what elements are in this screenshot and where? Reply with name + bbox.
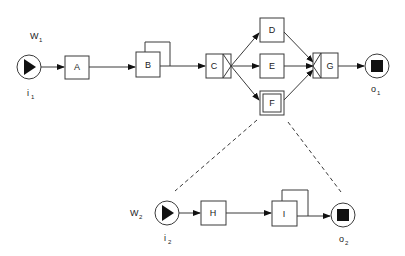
w1-name: W	[30, 31, 39, 41]
svg-text:F: F	[269, 98, 275, 108]
svg-text:B: B	[145, 60, 151, 70]
svg-text:C: C	[211, 61, 218, 71]
refinement-line-left	[175, 120, 257, 191]
o2-label-sub: 2	[345, 240, 349, 246]
task-g-xor-join[interactable]: G	[313, 53, 338, 78]
stop-icon	[371, 60, 383, 72]
refinement-line-right	[288, 122, 341, 192]
task-a[interactable]: A	[65, 56, 89, 79]
o1-label: o	[371, 84, 376, 94]
input-condition-i1[interactable]	[17, 55, 41, 79]
w2-name-sub: 2	[139, 214, 143, 220]
o1-label-sub: 1	[377, 90, 381, 96]
w2-name: W	[130, 208, 139, 218]
i2-label-sub: 2	[168, 239, 172, 245]
task-h[interactable]: H	[201, 201, 226, 225]
w1-name-sub: 1	[39, 37, 43, 43]
task-f-composite[interactable]: F	[260, 91, 284, 115]
svg-text:G: G	[326, 61, 333, 71]
workflow-w1: W 1 i 1 A B C	[17, 18, 389, 115]
workflow-diagram: W 1 i 1 A B C	[0, 0, 405, 256]
task-e[interactable]: E	[260, 54, 284, 78]
stop-icon	[337, 209, 349, 221]
input-condition-i2[interactable]	[155, 201, 179, 225]
workflow-w2: W 2 i 2 H I o 2	[130, 190, 355, 246]
output-condition-o2[interactable]	[331, 203, 355, 227]
i1-label: i	[27, 88, 29, 98]
svg-text:E: E	[269, 61, 275, 71]
i2-label: i	[164, 233, 166, 243]
svg-text:I: I	[283, 209, 286, 219]
task-b[interactable]: B	[136, 42, 170, 77]
task-d[interactable]: D	[260, 18, 284, 42]
output-condition-o1[interactable]	[365, 54, 389, 78]
i1-label-sub: 1	[31, 94, 35, 100]
o2-label: o	[339, 234, 344, 244]
svg-text:H: H	[210, 208, 217, 218]
svg-text:D: D	[269, 25, 276, 35]
task-c-xor-split[interactable]: C	[206, 54, 231, 78]
svg-text:A: A	[74, 62, 80, 72]
task-i[interactable]: I	[272, 190, 308, 226]
